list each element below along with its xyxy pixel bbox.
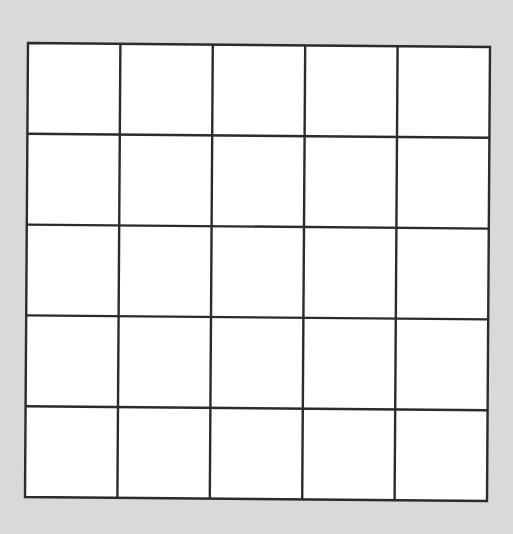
grid-cell-r5-c5 [395,409,488,501]
grid-cell-r1-c5 [397,46,490,138]
grid-cell-r4-c4 [303,318,396,410]
grid-diagram [0,0,513,534]
grid-cell-r2-c4 [304,136,397,228]
grid-cell-r4-c5 [395,319,488,411]
grid-cell-r5-c2 [117,407,210,499]
grid-cell-r1-c4 [305,45,398,137]
grid-cell-r5-c4 [302,409,395,501]
grid-cell-r2-c3 [212,135,305,227]
grid-cell-r3-c2 [119,225,212,317]
grid-cell-r1-c1 [27,43,120,135]
grid-cell-r2-c5 [396,137,489,229]
grid-cell-r3-c1 [26,225,119,317]
grid-cell-r2-c2 [119,135,212,227]
grid-cell-r3-c4 [303,227,396,319]
grid-cells [25,43,490,501]
grid-cell-r3-c5 [396,228,489,320]
grid-cell-r4-c2 [118,316,211,408]
grid-cell-r1-c3 [212,45,305,137]
grid-cell-r2-c1 [27,134,120,226]
grid-cell-r3-c3 [211,226,304,318]
grid-cell-r1-c2 [120,44,213,136]
grid-cell-r4-c1 [26,315,119,407]
grid-cell-r4-c3 [210,317,303,409]
grid-cell-r5-c3 [210,408,303,500]
grid-cell-r5-c1 [25,406,118,498]
page-canvas [0,0,513,534]
